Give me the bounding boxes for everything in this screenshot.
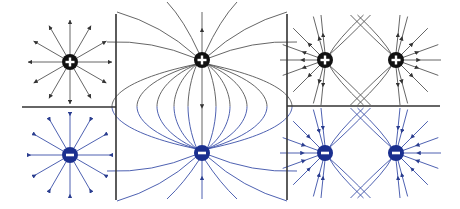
radial-field-line — [49, 69, 66, 98]
radial-field-line — [49, 26, 66, 55]
positive-charge — [388, 52, 404, 68]
dipole-field-line — [207, 107, 247, 150]
dipole-field-line — [117, 157, 196, 201]
like-charge-field-line — [358, 158, 393, 198]
positive-charge — [317, 52, 333, 68]
like-charge-field-line — [283, 155, 320, 168]
minus-icon — [198, 152, 206, 155]
like-charge-field-line — [402, 62, 439, 75]
radial-field-line — [77, 134, 106, 151]
dipole-field-line — [207, 64, 216, 107]
like-charge-field-line — [402, 45, 439, 58]
radial-field-line — [74, 119, 91, 148]
like-charge-field-line — [329, 158, 364, 198]
field-lines-diagram: Electric field lines of point charges Si… — [0, 0, 460, 209]
like-charge-field-line — [402, 138, 439, 151]
radial-field-line — [74, 162, 91, 191]
dipole-field-line — [205, 160, 237, 199]
like-charge-field-line — [400, 157, 428, 185]
diagram-canvas — [0, 0, 460, 209]
like-charge-field-line — [293, 121, 321, 149]
radial-field-line — [34, 134, 63, 151]
dipole-field-line — [167, 160, 199, 199]
radial-field-line — [77, 159, 106, 176]
like-charge-field-line — [293, 64, 321, 92]
dipole-field-line — [157, 64, 197, 107]
positive-charge — [194, 52, 210, 68]
like-charge-field-line — [400, 64, 428, 92]
radial-field-line — [77, 41, 106, 58]
radial-field-line — [49, 119, 66, 148]
negative-charge — [194, 145, 210, 161]
dipole-field-line — [208, 12, 287, 56]
negative-charge — [62, 147, 78, 163]
minus-icon — [66, 154, 74, 157]
negative-charge — [317, 145, 333, 161]
like-charge-field-line — [351, 15, 393, 55]
like-charge-field-line — [358, 108, 393, 148]
positive-charge — [62, 54, 78, 70]
like-charge-field-line — [283, 45, 320, 58]
like-charge-field-line — [351, 108, 393, 148]
dipole-field-line — [188, 64, 197, 107]
like-charge-field-line — [358, 15, 393, 55]
minus-icon — [392, 152, 400, 155]
like-charge-field-line — [293, 157, 321, 185]
like-charge-field-line — [358, 65, 393, 105]
like-charge-field-line — [400, 28, 428, 56]
like-charge-field-line — [329, 108, 364, 148]
negative-charge — [388, 145, 404, 161]
like-charge-field-line — [329, 15, 364, 55]
dipole-field-line — [207, 107, 216, 150]
radial-field-line — [49, 162, 66, 191]
like-charge-field-line — [400, 121, 428, 149]
minus-icon — [321, 152, 329, 155]
like-charge-field-line — [283, 62, 320, 75]
dipole-field-line — [157, 107, 197, 150]
radial-field-line — [77, 66, 106, 83]
radial-field-line — [34, 41, 63, 58]
radial-field-line — [74, 26, 91, 55]
like-charge-field-line — [293, 28, 321, 56]
dipole-field-line — [207, 64, 247, 107]
dipole-field-line — [188, 107, 197, 150]
radial-field-line — [34, 66, 63, 83]
radial-field-line — [34, 159, 63, 176]
like-charge-field-line — [402, 155, 439, 168]
radial-field-line — [74, 69, 91, 98]
like-charge-field-line — [283, 138, 320, 151]
like-charge-field-line — [351, 65, 393, 105]
like-charge-field-line — [351, 158, 393, 198]
field-lines — [28, 2, 441, 201]
like-charge-field-line — [329, 65, 364, 105]
dipole-field-line — [208, 157, 287, 201]
dipole-field-line — [117, 12, 196, 56]
